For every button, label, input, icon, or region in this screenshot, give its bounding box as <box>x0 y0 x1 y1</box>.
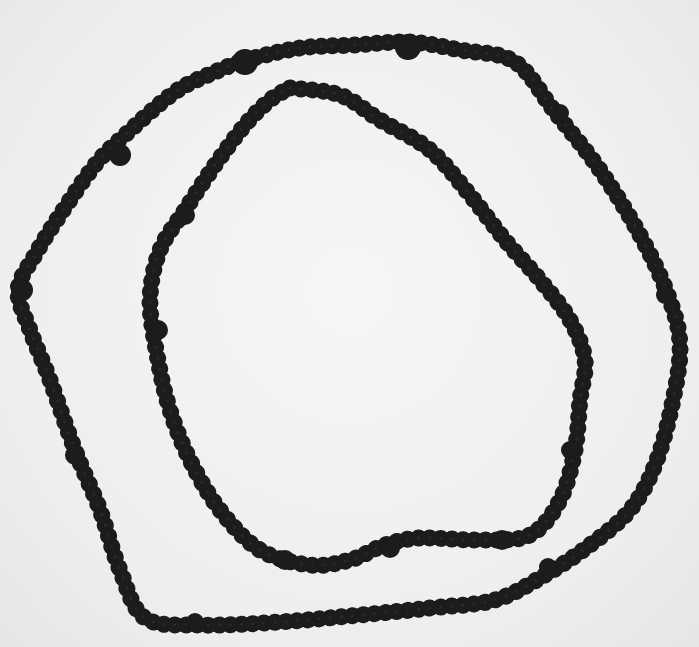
accent-bead <box>65 445 85 465</box>
inner-loop-beads <box>150 88 585 565</box>
accent-bead <box>232 49 258 75</box>
accent-bead <box>656 286 674 304</box>
accent-bead <box>186 613 204 631</box>
accent-bead <box>175 205 195 225</box>
accent-bead <box>148 320 168 340</box>
accent-bead <box>109 144 131 166</box>
necklace-strands <box>18 42 680 625</box>
accent-bead <box>561 441 579 459</box>
accent-bead <box>380 538 400 558</box>
accent-bead <box>275 550 295 570</box>
accent-bead <box>539 558 557 576</box>
necklace-photo <box>0 0 699 647</box>
accent-bead <box>395 34 421 60</box>
accent-bead <box>551 104 569 122</box>
necklace-illustration <box>0 0 699 647</box>
accent-bead <box>11 279 33 301</box>
accent-bead <box>492 530 512 550</box>
